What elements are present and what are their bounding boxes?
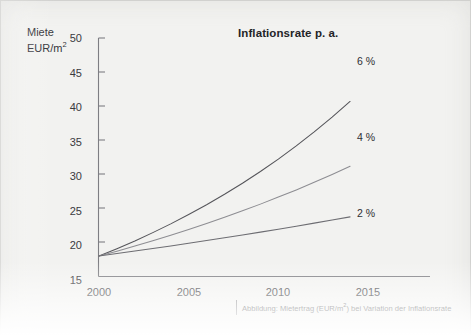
curve-4-percent (99, 166, 350, 256)
caption-prefix: Abbildung: Mietertrag (EUR/m (242, 304, 343, 313)
figure-caption: Abbildung: Mietertrag (EUR/m2) bei Varia… (236, 300, 451, 315)
figure-page: Miete EUR/m2 Inflationsrate p. a. 50 45 … (0, 0, 471, 335)
y-axis-ticks (99, 38, 106, 242)
data-curves (99, 101, 350, 256)
curve-6-percent (99, 101, 350, 256)
caption-rule (236, 300, 237, 315)
curve-2-percent (99, 217, 350, 256)
plot-area (0, 0, 471, 335)
caption-text: Abbildung: Mietertrag (EUR/m2) bei Varia… (242, 302, 451, 313)
caption-suffix: ) bei Variation der Inflationsrate (346, 304, 451, 313)
